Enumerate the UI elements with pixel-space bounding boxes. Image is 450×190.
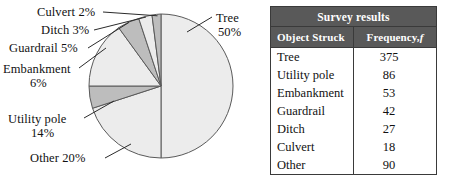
column-header-object-struck: Object Struck [271, 27, 354, 48]
pie-label-tree: Tree 50% [216, 11, 241, 39]
cell-object: Other [271, 156, 354, 175]
column-header-frequency-text: Frequency, [367, 31, 420, 43]
cell-frequency: 27 [354, 120, 437, 138]
column-header-frequency-symbol: f [420, 31, 424, 43]
pie-label-tree-name: Tree [216, 11, 239, 25]
table-row: Embankment 53 [271, 84, 437, 102]
pie-label-embankment-name: Embankment [3, 62, 71, 76]
pie-label-ditch: Ditch 3% [41, 24, 89, 38]
pie-label-utility-pole-name: Utility pole [8, 112, 67, 126]
pie-label-culvert: Culvert 2% [37, 6, 95, 20]
table-body: Tree 375 Utility pole 86 Embankment 53 G… [271, 48, 437, 175]
table-title: Survey results [271, 7, 437, 27]
cell-object: Tree [271, 48, 354, 67]
table-row: Ditch 27 [271, 120, 437, 138]
pie-label-other: Other 20% [30, 152, 85, 166]
cell-object: Guardrail [271, 102, 354, 120]
table-row: Other 90 [271, 156, 437, 175]
cell-frequency: 42 [354, 102, 437, 120]
cell-frequency: 53 [354, 84, 437, 102]
cell-frequency: 18 [354, 138, 437, 156]
cell-object: Embankment [271, 84, 354, 102]
column-header-frequency: Frequency,f [354, 27, 437, 48]
cell-frequency: 375 [354, 48, 437, 67]
pie-label-utility-pole-percent: 14% [31, 126, 67, 140]
survey-results-table: Survey results Object Struck Frequency,f… [270, 6, 437, 175]
table-header-group: Survey results Object Struck Frequency,f [271, 7, 437, 48]
table-title-row: Survey results [271, 7, 437, 27]
pie-label-guardrail: Guardrail 5% [9, 42, 78, 56]
cell-frequency: 86 [354, 66, 437, 84]
table-row: Guardrail 42 [271, 102, 437, 120]
cell-frequency: 90 [354, 156, 437, 175]
cell-object: Utility pole [271, 66, 354, 84]
table-row: Utility pole 86 [271, 66, 437, 84]
pie-label-utility-pole: Utility pole 14% [8, 112, 67, 140]
table-column-header-row: Object Struck Frequency,f [271, 27, 437, 48]
pie-label-tree-percent: 50% [218, 25, 241, 39]
table-row: Culvert 18 [271, 138, 437, 156]
table-row: Tree 375 [271, 48, 437, 67]
pie-chart-panel: Culvert 2% Ditch 3% Guardrail 5% Embankm… [0, 0, 262, 190]
cell-object: Culvert [271, 138, 354, 156]
cell-object: Ditch [271, 120, 354, 138]
pie-label-embankment-percent: 6% [30, 76, 71, 90]
pie-label-embankment: Embankment 6% [3, 62, 71, 90]
